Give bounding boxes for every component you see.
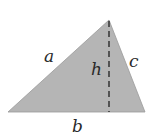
side-label-b: b: [72, 118, 83, 134]
side-label-c: c: [129, 53, 139, 70]
triangle-diagram: a h c b: [0, 0, 157, 134]
side-label-a: a: [44, 48, 54, 65]
triangle-shape: [8, 20, 145, 112]
altitude-label-h: h: [91, 61, 102, 78]
